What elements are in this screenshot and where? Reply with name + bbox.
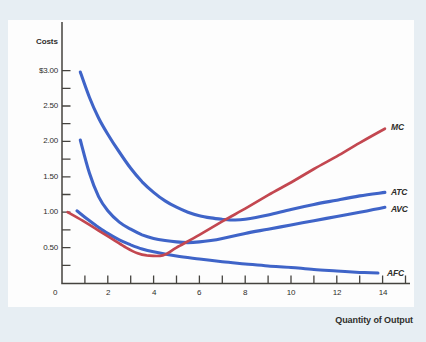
page-background: Costs $3.002.502.001.501.000.50 02468101…	[0, 0, 426, 342]
tick-marks	[62, 71, 406, 283]
axes	[61, 22, 410, 284]
curves	[68, 72, 385, 273]
axis-lines	[61, 22, 410, 284]
x-tick-label: 14	[379, 288, 388, 298]
cost-curves-chart	[0, 0, 426, 342]
y-axis-title: Costs	[36, 37, 58, 46]
curve-label-afc: AFC	[387, 268, 404, 278]
x-tick-label: 4	[152, 288, 156, 298]
y-tick-label: 0.50	[28, 243, 58, 253]
x-tick-label: 12	[333, 288, 342, 298]
curve-label-mc: MC	[391, 122, 404, 132]
y-tick-label: 1.50	[28, 172, 58, 182]
x-axis-title: Quantity of Output	[335, 315, 413, 325]
axis-ticks	[62, 71, 406, 283]
y-tick-label: 2.50	[28, 101, 58, 111]
x-tick-label: 2	[106, 288, 110, 298]
x-tick-label: 6	[197, 288, 201, 298]
curve-label-avc: AVC	[391, 204, 408, 214]
curve-label-atc: ATC	[391, 187, 407, 197]
y-tick-label: $3.00	[28, 66, 58, 76]
y-tick-label: 1.00	[28, 207, 58, 217]
y-tick-label: 2.00	[28, 136, 58, 146]
x-tick-label: 10	[287, 288, 296, 298]
x-tick-label: 8	[243, 288, 247, 298]
x-tick-label: 0	[53, 288, 57, 298]
curve-atc	[80, 72, 385, 220]
